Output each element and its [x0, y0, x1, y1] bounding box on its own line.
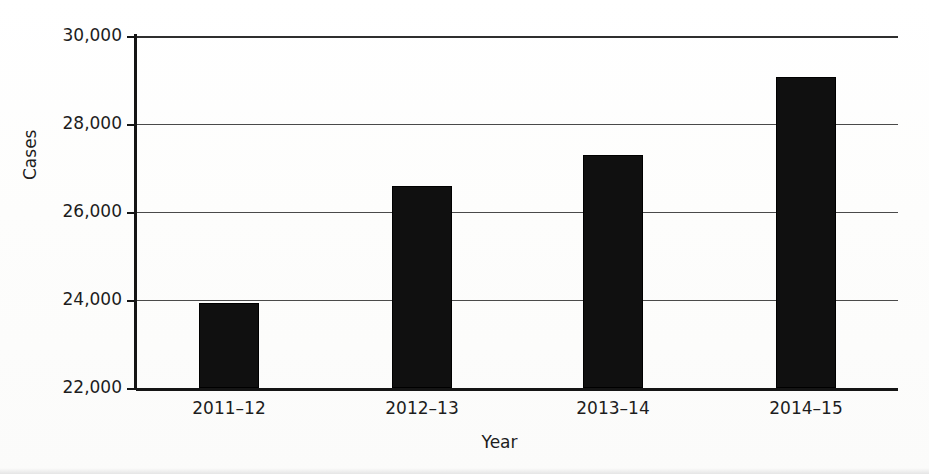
- bar-2012-13[interactable]: [392, 186, 452, 388]
- y-tick-28000: [127, 124, 137, 126]
- bar-chart: Cases 30,000 28,000 26,000 24,000 22,000: [0, 0, 929, 474]
- x-tick-label-2012-13: 2012–13: [385, 398, 458, 418]
- bar-2014-15[interactable]: [776, 77, 836, 388]
- y-tick-label-30000: 30,000: [63, 25, 122, 45]
- bar-2011-12[interactable]: [199, 303, 259, 388]
- gridline-22000-baseline: [136, 388, 898, 391]
- x-tick-label-2013-14: 2013–14: [576, 398, 649, 418]
- y-tick-30000: [127, 36, 137, 38]
- y-tick-24000: [127, 300, 137, 302]
- gridline-30000: [136, 36, 898, 38]
- x-axis-title-container: Year: [0, 432, 929, 452]
- y-tick-label-24000: 24,000: [63, 289, 122, 309]
- y-tick-label-22000: 22,000: [63, 377, 122, 397]
- y-tick-label-26000: 26,000: [63, 201, 122, 221]
- y-axis-title: Cases: [20, 130, 40, 180]
- plot-area: 30,000 28,000 26,000 24,000 22,000: [136, 36, 898, 388]
- y-tick-22000: [127, 388, 137, 390]
- x-tick-label-2011-12: 2011–12: [192, 398, 265, 418]
- bar-2013-14[interactable]: [583, 155, 643, 388]
- scan-edge-shadow: [0, 468, 929, 474]
- x-axis-title: Year: [482, 432, 518, 452]
- x-tick-label-2014-15: 2014–15: [769, 398, 842, 418]
- y-tick-label-28000: 28,000: [63, 113, 122, 133]
- y-tick-26000: [127, 212, 137, 214]
